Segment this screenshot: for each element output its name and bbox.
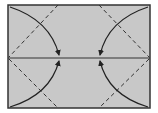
paper-sheet: [8, 5, 150, 108]
fold-diagram: [0, 0, 158, 113]
